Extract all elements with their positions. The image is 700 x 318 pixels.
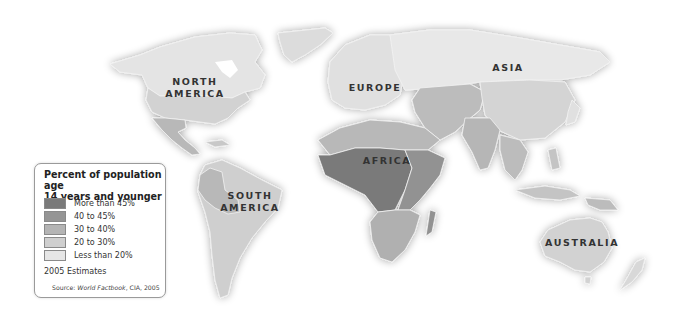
label-america: AMERICA	[160, 88, 230, 100]
legend-label: 30 to 40%	[74, 224, 115, 235]
legend-swatch	[44, 250, 66, 261]
legend-swatch	[44, 198, 66, 209]
new-zealand	[620, 258, 645, 290]
label-south-america: SOUTH AMERICA	[215, 190, 285, 214]
estimates-note: 2005 Estimates	[44, 267, 106, 276]
label-asia: ASIA	[488, 62, 528, 74]
legend-label: 40 to 45%	[74, 211, 115, 222]
legend-label: 20 to 30%	[74, 237, 115, 248]
label-north: NORTH	[160, 76, 230, 88]
legend-label: Less than 20%	[74, 250, 133, 261]
label-africa: AFRICA	[362, 155, 412, 167]
caribbean	[205, 140, 230, 147]
legend-title-line1: Percent of population age	[44, 169, 169, 191]
label-australia: AUSTRALIA	[545, 237, 609, 249]
source-suffix: , CIA, 2005	[126, 284, 160, 291]
label-north-america: NORTH AMERICA	[160, 76, 230, 100]
greenland	[278, 28, 333, 62]
madagascar	[426, 210, 436, 236]
source-title: World Factbook	[77, 284, 125, 291]
source-note: Source: World Factbook, CIA, 2005	[52, 284, 160, 291]
label-europe: EUROPE	[345, 82, 405, 94]
mexico-central-america	[152, 118, 200, 155]
source-prefix: Source:	[52, 284, 77, 291]
tasmania	[585, 277, 591, 284]
map-legend: Percent of population age 14 years and y…	[34, 163, 166, 298]
label-south: SOUTH	[215, 190, 285, 202]
legend-swatch	[44, 211, 66, 222]
legend-swatch	[44, 224, 66, 235]
south-asia	[462, 118, 500, 170]
southeast-asia	[500, 135, 528, 180]
legend-label: More than 45%	[74, 198, 135, 209]
label-america-south: AMERICA	[215, 202, 285, 214]
philippines	[548, 148, 560, 170]
new-guinea	[585, 198, 618, 210]
indonesia	[515, 186, 580, 200]
southern-africa	[370, 210, 420, 262]
legend-swatch	[44, 237, 66, 248]
